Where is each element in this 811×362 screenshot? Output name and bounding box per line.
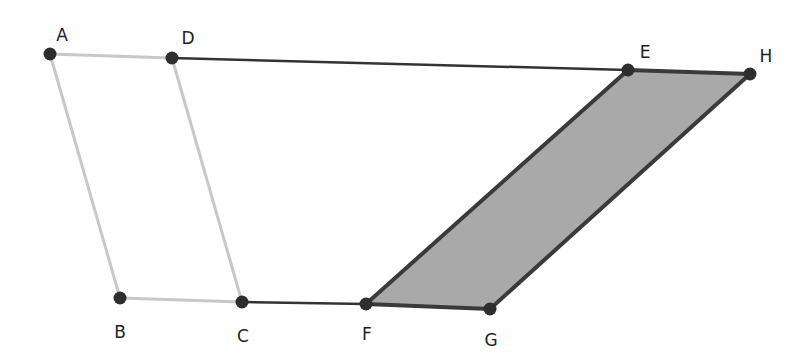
label-a: A [56,27,68,44]
point-b[interactable] [114,292,127,305]
point-f[interactable] [360,298,373,311]
label-d: D [181,30,194,47]
label-f: F [362,326,372,343]
geometry-canvas [0,0,811,362]
point-g[interactable] [484,303,497,316]
point-d[interactable] [166,52,179,65]
point-h[interactable] [744,68,757,81]
segment-ad [50,54,172,58]
label-g: G [484,332,497,349]
segment-ab [50,54,120,298]
segment-de [172,58,628,70]
shaded-parallelogram-ehgf [366,70,750,309]
point-c[interactable] [236,296,249,309]
label-h: H [760,48,773,65]
point-e[interactable] [622,64,635,77]
segment-bc [120,298,242,302]
point-a[interactable] [44,48,57,61]
label-c: C [237,328,249,345]
segment-cf [242,302,366,304]
label-e: E [640,44,651,61]
segment-dc [172,58,242,302]
light-parallelogram-abcd [50,54,242,302]
label-b: B [114,324,126,341]
